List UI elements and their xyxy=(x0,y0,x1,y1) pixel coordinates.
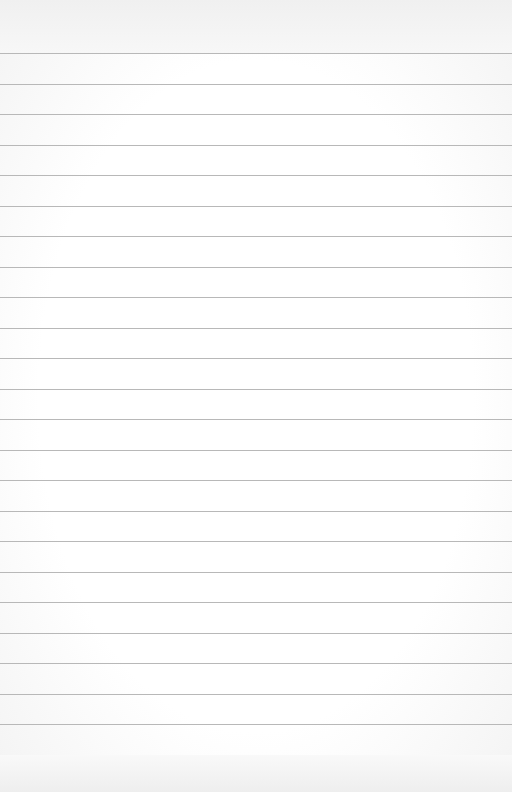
ruled-line xyxy=(0,389,512,390)
ruled-line xyxy=(0,602,512,603)
ruled-line xyxy=(0,358,512,359)
ruled-line xyxy=(0,633,512,634)
ruled-line xyxy=(0,663,512,664)
ruled-line xyxy=(0,328,512,329)
ruled-line xyxy=(0,694,512,695)
ruled-line xyxy=(0,236,512,237)
ruled-line xyxy=(0,206,512,207)
ruled-line xyxy=(0,297,512,298)
ruled-line xyxy=(0,541,512,542)
ruled-line xyxy=(0,572,512,573)
ruled-line xyxy=(0,511,512,512)
lined-paper-sheet xyxy=(0,0,512,792)
ruled-line xyxy=(0,419,512,420)
ruled-line xyxy=(0,145,512,146)
bottom-margin xyxy=(0,755,512,792)
top-margin xyxy=(0,0,512,53)
ruled-line xyxy=(0,114,512,115)
ruled-line xyxy=(0,53,512,54)
ruled-line xyxy=(0,724,512,725)
ruled-line xyxy=(0,450,512,451)
ruled-line xyxy=(0,480,512,481)
ruled-line xyxy=(0,84,512,85)
ruled-line xyxy=(0,267,512,268)
ruled-line xyxy=(0,175,512,176)
